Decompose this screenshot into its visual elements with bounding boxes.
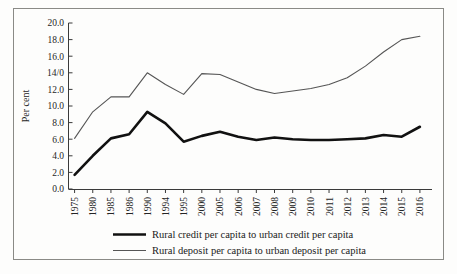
y-tick-label: 8.0: [52, 118, 64, 128]
series-line-rural-deposit-ratio: [75, 36, 420, 138]
x-tick-label: 2016: [415, 197, 425, 216]
y-tick-label: 6.0: [52, 135, 64, 145]
y-tick-label: 14/0: [47, 68, 64, 78]
y-tick-label: 20.0: [47, 18, 64, 28]
x-axis-tick-labels: 1975198019851986199019941995200020052006…: [70, 197, 425, 216]
x-tick-label: 2013: [361, 197, 371, 216]
x-tick-label: 2008: [270, 197, 280, 216]
x-tick-label: 2011: [325, 197, 335, 216]
x-tick-label: 2005: [215, 197, 225, 216]
x-tick-label: 2014: [379, 197, 389, 216]
y-tick-label: 16.0: [47, 52, 64, 62]
x-tick-label: 2015: [397, 197, 407, 216]
x-tick-label: 1980: [88, 197, 98, 216]
y-axis-tick-labels: 0.02.04.06.08.010.012.014/016.018.020.0: [47, 18, 64, 194]
y-tick-label: 2.0: [52, 168, 64, 178]
figure-container: Per cent 0.02.04.06.08.010.012.014/016.0…: [0, 0, 457, 274]
x-tick-label: 1986: [125, 197, 135, 216]
x-tick-label: 1990: [143, 197, 153, 216]
y-tick-label: 12.0: [47, 85, 64, 95]
x-tick-label: 2009: [288, 197, 298, 216]
y-tick-label: 18.0: [47, 35, 64, 45]
y-tick-label: 0.0: [52, 184, 64, 194]
legend: Rural credit per capita to urban credit …: [113, 229, 366, 256]
x-tick-label: 1995: [179, 197, 189, 216]
series-line-rural-credit-ratio: [75, 112, 420, 175]
line-chart: Per cent 0.02.04.06.08.010.012.014/016.0…: [0, 0, 457, 274]
legend-label-credit: Rural credit per capita to urban credit …: [152, 229, 353, 240]
x-tick-label: 1985: [106, 197, 116, 216]
legend-label-deposit: Rural deposit per capita to urban deposi…: [152, 245, 366, 256]
x-tick-label: 2012: [343, 197, 353, 216]
y-axis-tick-marks: [69, 23, 73, 189]
y-tick-label: 4.0: [52, 151, 64, 161]
y-tick-label: 10.0: [47, 101, 64, 111]
x-tick-label: 2000: [197, 197, 207, 216]
x-tick-label: 2006: [234, 197, 244, 216]
x-tick-label: 1994: [161, 197, 171, 216]
x-tick-label: 1975: [70, 197, 80, 216]
x-tick-label: 2007: [252, 197, 262, 216]
y-axis-title: Per cent: [20, 90, 31, 123]
x-tick-label: 2010: [306, 197, 316, 216]
